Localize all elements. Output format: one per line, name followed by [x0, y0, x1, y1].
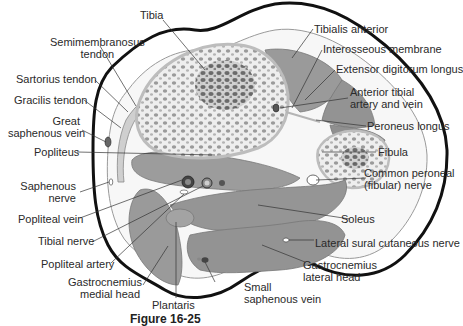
label-text: saphenous vein — [8, 127, 80, 139]
label-text: Tibialis anterior — [314, 23, 388, 35]
saphenous-nerve — [109, 179, 113, 185]
label-sartorius: Sartorius tendon — [16, 73, 97, 85]
label-soleus: Soleus — [341, 213, 375, 225]
label-text: Popliteal artery — [41, 258, 114, 270]
label-text: nerve — [20, 192, 76, 204]
label-text: Tibial nerve — [38, 235, 94, 247]
anterior-tibial-vessels — [273, 104, 279, 112]
label-great-saphenous: Great saphenous vein — [8, 115, 80, 139]
label-text: Small — [244, 281, 321, 293]
label-text: Anterior tibial — [350, 86, 423, 98]
label-text: Gastrocnemius — [303, 259, 377, 271]
label-small-saphenous: Small saphenous vein — [244, 281, 321, 305]
label-popliteus: Popliteus — [34, 146, 79, 158]
label-text: artery and vein — [350, 98, 423, 110]
label-text: Semimembranosus — [50, 36, 145, 48]
label-text: Saphenous — [20, 180, 76, 192]
small-saphenous-vein — [202, 257, 209, 263]
label-text: Fibula — [378, 146, 408, 158]
label-text: Great — [8, 115, 80, 127]
label-text: Gastrocnemius — [68, 276, 140, 288]
label-lateral-sural: Lateral sural cutaneous nerve — [315, 237, 460, 249]
label-text: Extensor digitorum longus — [336, 63, 463, 75]
label-tibial-nerve: Tibial nerve — [38, 235, 94, 247]
label-text: tendon — [50, 48, 145, 60]
label-text: Plantaris — [152, 299, 195, 311]
label-text: Sartorius tendon — [16, 73, 97, 85]
lateral-sural-nerve — [283, 238, 289, 242]
label-gastrocnemius-lateral: Gastrocnemius lateral head — [303, 259, 377, 283]
label-semimembranosus: Semimembranosus tendon — [50, 36, 145, 60]
label-interosseous: Interosseous membrane — [323, 43, 442, 55]
label-common-peroneal: Common peroneal (fibular) nerve — [364, 167, 455, 191]
label-popliteal-vein: Popliteal vein — [18, 213, 83, 225]
label-text: (fibular) nerve — [364, 179, 455, 191]
label-tibia: Tibia — [140, 9, 163, 21]
label-text: Gracilis tendon — [14, 94, 87, 106]
label-text: Lateral sural cutaneous nerve — [315, 237, 460, 249]
tibial-nerve — [180, 190, 188, 194]
label-text: Popliteus — [34, 146, 79, 158]
label-text: medial head — [68, 288, 140, 300]
label-extensor-digitorum: Extensor digitorum longus — [336, 63, 463, 75]
label-gracilis: Gracilis tendon — [14, 94, 87, 106]
label-text: Tibia — [140, 9, 163, 21]
label-text: Peroneus longus — [367, 120, 450, 132]
label-gastrocnemius-medial: Gastrocnemius medial head — [68, 276, 140, 300]
figure-caption: Figure 16-25 — [130, 312, 201, 326]
label-fibula: Fibula — [378, 146, 408, 158]
label-peroneus-longus: Peroneus longus — [367, 120, 450, 132]
label-text: Popliteal vein — [18, 213, 83, 225]
label-tibialis-anterior: Tibialis anterior — [314, 23, 388, 35]
label-text: Interosseous membrane — [323, 43, 442, 55]
label-anterior-tibial: Anterior tibial artery and vein — [350, 86, 423, 110]
label-plantaris: Plantaris — [152, 299, 195, 311]
plantaris-muscle — [166, 209, 194, 227]
label-popliteal-artery: Popliteal artery — [41, 258, 114, 270]
label-text: Soleus — [341, 213, 375, 225]
label-text: Common peroneal — [364, 167, 455, 179]
label-saphenous-nerve: Saphenous nerve — [20, 180, 76, 204]
label-text: saphenous vein — [244, 293, 321, 305]
